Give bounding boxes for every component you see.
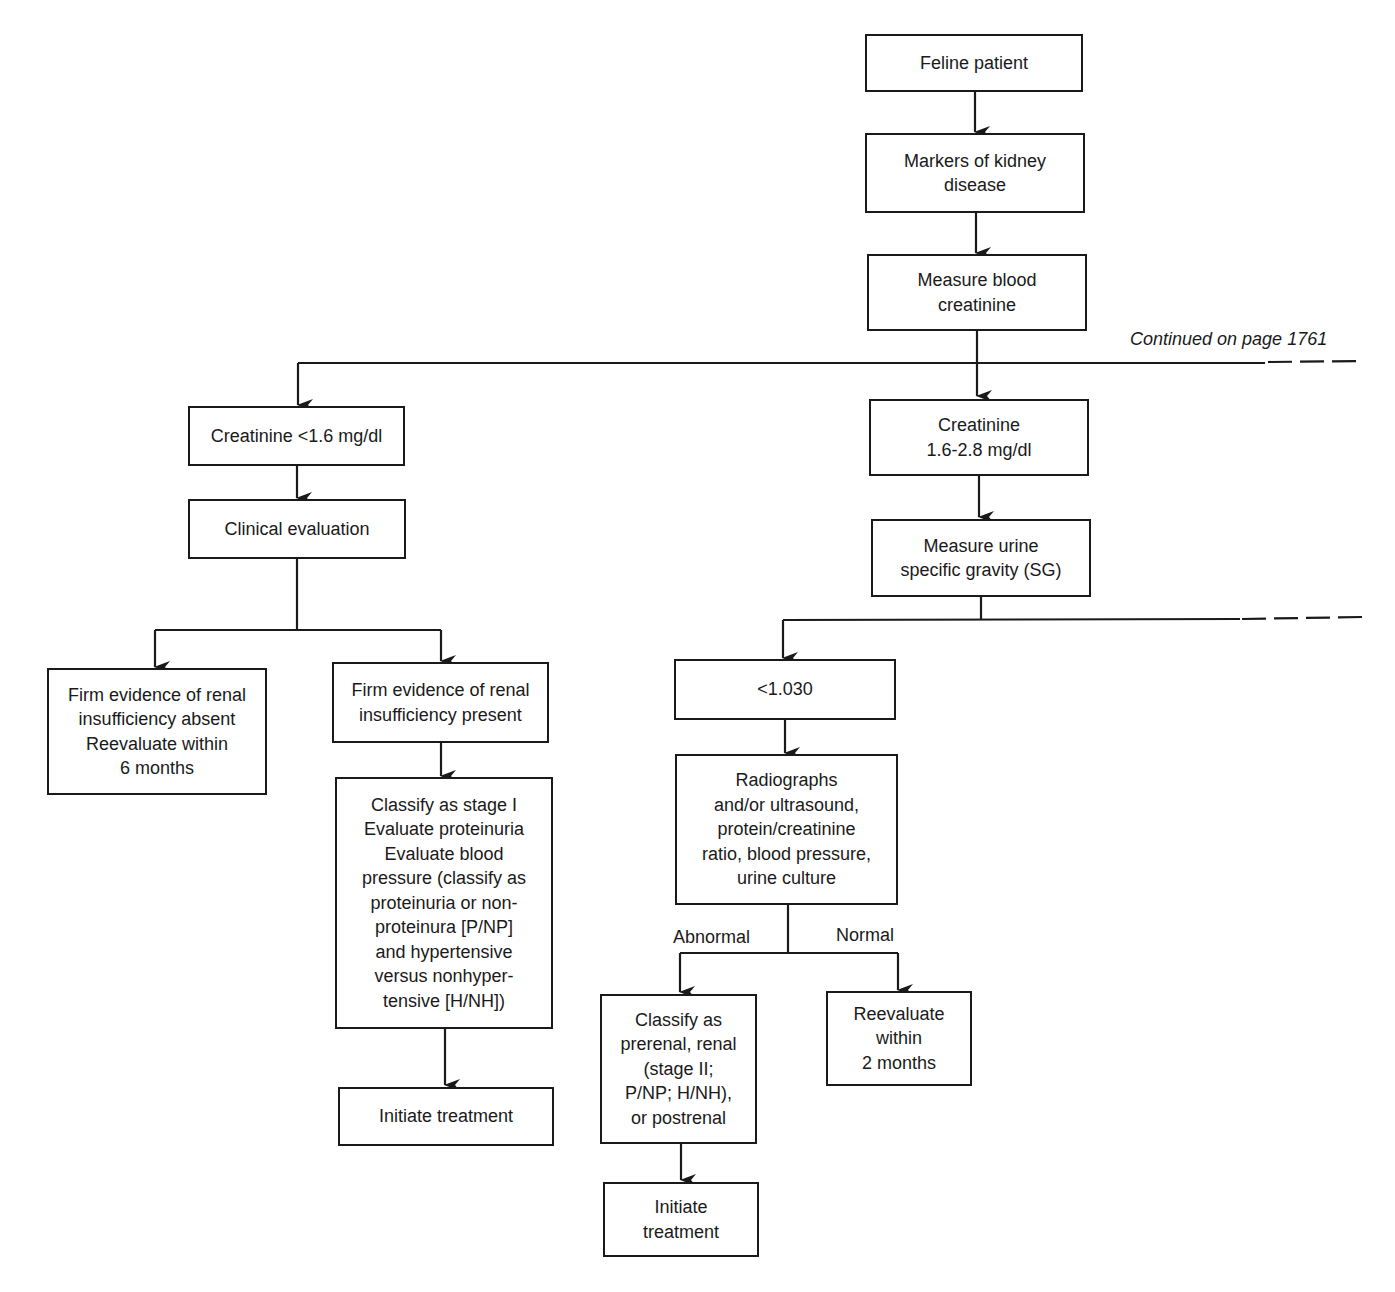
node-measure-urine-sg: Measure urine specific gravity (SG) bbox=[871, 519, 1091, 597]
branch-line-sg bbox=[783, 619, 1240, 620]
node-renal-insufficiency-present: Firm evidence of renal insufficiency pre… bbox=[332, 662, 549, 743]
node-markers-of-kidney-disease: Markers of kidney disease bbox=[865, 133, 1085, 213]
node-classify-stage-1: Classify as stage I Evaluate proteinuria… bbox=[335, 777, 553, 1029]
node-renal-insufficiency-absent: Firm evidence of renal insufficiency abs… bbox=[47, 668, 267, 795]
node-reevaluate-2-months: Reevaluate within 2 months bbox=[826, 991, 972, 1086]
node-initiate-treatment-right: Initiate treatment bbox=[603, 1182, 759, 1257]
continuation-dashes-2 bbox=[1242, 617, 1363, 619]
node-creatinine-mid: Creatinine 1.6-2.8 mg/dl bbox=[869, 399, 1089, 476]
node-initiate-treatment-left: Initiate treatment bbox=[338, 1087, 554, 1146]
node-creatinine-low: Creatinine <1.6 mg/dl bbox=[188, 406, 405, 466]
node-classify-stage-2: Classify as prerenal, renal (stage II; P… bbox=[600, 994, 757, 1144]
continuation-dashes-1 bbox=[1268, 361, 1362, 362]
node-measure-blood-creatinine: Measure blood creatinine bbox=[867, 254, 1087, 331]
node-radiographs: Radiographs and/or ultrasound, protein/c… bbox=[675, 754, 898, 905]
edge-label-abnormal: Abnormal bbox=[673, 926, 750, 948]
node-clinical-evaluation: Clinical evaluation bbox=[188, 499, 406, 559]
continuation-note: Continued on page 1761 bbox=[1130, 328, 1327, 350]
node-sg-below-1030: <1.030 bbox=[674, 659, 896, 720]
edge-label-normal: Normal bbox=[836, 924, 894, 946]
node-feline-patient: Feline patient bbox=[865, 34, 1083, 92]
